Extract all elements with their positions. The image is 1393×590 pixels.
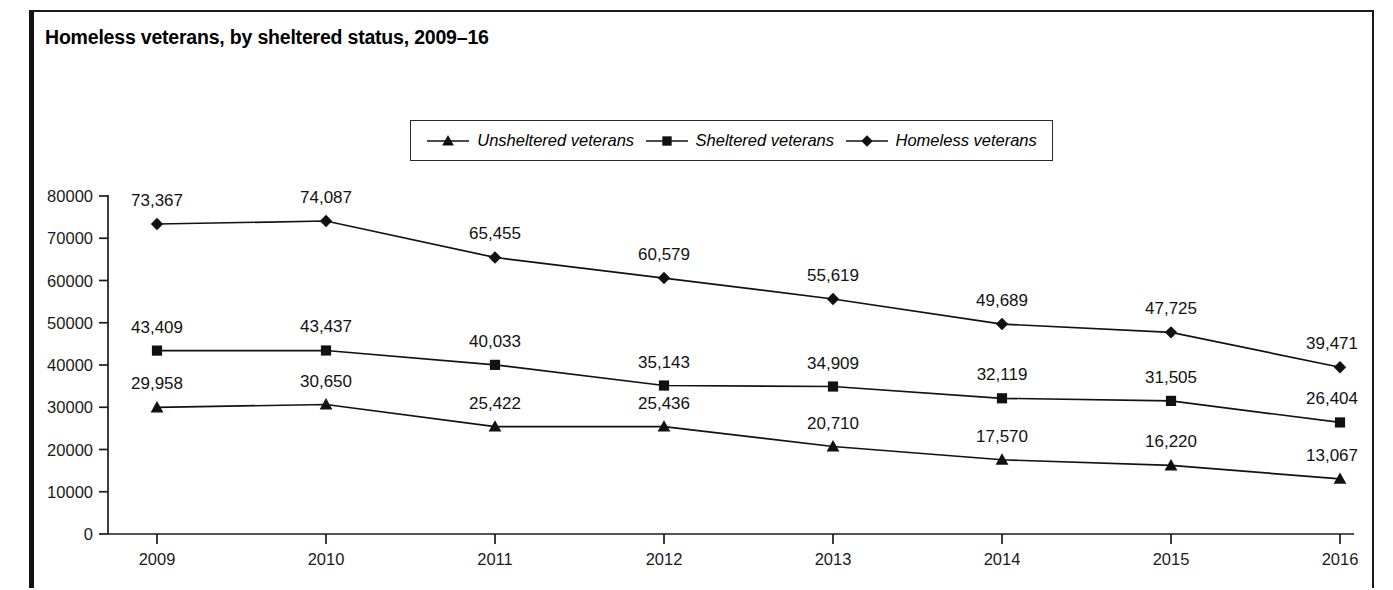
y-tick-label: 60000 xyxy=(47,272,93,290)
data-point-marker[interactable] xyxy=(1166,396,1176,406)
series-line-diamond xyxy=(157,221,1340,367)
figure-panel: Homeless veterans, by sheltered status, … xyxy=(0,0,1393,590)
x-tick-label: 2011 xyxy=(477,550,512,568)
data-point-label: 16,220 xyxy=(1145,432,1197,451)
data-point-label: 17,570 xyxy=(976,427,1028,446)
data-point-label: 13,067 xyxy=(1306,446,1358,465)
data-point-marker[interactable] xyxy=(151,218,163,230)
data-point-label: 47,725 xyxy=(1145,299,1197,318)
data-point-label: 65,455 xyxy=(469,224,521,243)
data-point-marker[interactable] xyxy=(828,381,838,391)
x-tick-label: 2016 xyxy=(1322,550,1359,568)
data-point-label: 49,689 xyxy=(976,291,1028,310)
y-tick-label: 0 xyxy=(84,525,93,543)
y-tick-label: 70000 xyxy=(47,229,93,247)
data-point-label: 39,471 xyxy=(1306,334,1358,353)
x-tick-label: 2013 xyxy=(815,550,852,568)
data-point-marker[interactable] xyxy=(996,318,1008,330)
data-point-label: 40,033 xyxy=(469,332,521,351)
data-point-label: 73,367 xyxy=(131,191,183,210)
data-point-marker[interactable] xyxy=(1334,361,1346,373)
data-point-label: 60,579 xyxy=(638,245,690,264)
y-tick-label: 50000 xyxy=(47,314,93,332)
data-point-marker[interactable] xyxy=(152,345,162,355)
data-point-marker[interactable] xyxy=(997,393,1007,403)
data-point-marker[interactable] xyxy=(320,215,332,227)
x-tick-label: 2012 xyxy=(646,550,683,568)
data-point-marker[interactable] xyxy=(659,380,669,390)
data-point-label: 34,909 xyxy=(807,354,859,373)
x-tick-label: 2014 xyxy=(984,550,1021,568)
data-point-label: 20,710 xyxy=(807,414,859,433)
data-point-label: 43,437 xyxy=(300,317,352,336)
line-chart-plot: 8000070000600005000040000300002000010000… xyxy=(0,0,1393,590)
data-point-label: 25,422 xyxy=(469,394,521,413)
y-tick-label: 40000 xyxy=(47,356,93,374)
data-point-marker[interactable] xyxy=(1165,326,1177,338)
data-point-label: 30,650 xyxy=(300,372,352,391)
data-point-marker[interactable] xyxy=(321,345,331,355)
data-point-label: 74,087 xyxy=(300,188,352,207)
x-tick-label: 2015 xyxy=(1153,550,1190,568)
data-point-label: 35,143 xyxy=(638,353,690,372)
x-tick-label: 2010 xyxy=(308,550,345,568)
data-point-marker[interactable] xyxy=(658,272,670,284)
y-tick-label: 80000 xyxy=(47,187,93,205)
data-point-label: 55,619 xyxy=(807,266,859,285)
data-point-marker[interactable] xyxy=(489,251,501,263)
data-point-marker[interactable] xyxy=(490,360,500,370)
data-point-label: 29,958 xyxy=(131,374,183,393)
x-tick-label: 2009 xyxy=(139,550,176,568)
data-point-label: 43,409 xyxy=(131,318,183,337)
data-point-marker[interactable] xyxy=(827,293,839,305)
data-point-label: 26,404 xyxy=(1306,389,1358,408)
data-point-marker[interactable] xyxy=(1335,417,1345,427)
data-point-label: 32,119 xyxy=(977,365,1028,384)
y-tick-label: 30000 xyxy=(47,398,93,416)
y-tick-label: 20000 xyxy=(47,441,93,459)
data-point-label: 31,505 xyxy=(1145,368,1197,387)
y-tick-label: 10000 xyxy=(47,483,93,501)
data-point-label: 25,436 xyxy=(638,394,690,413)
